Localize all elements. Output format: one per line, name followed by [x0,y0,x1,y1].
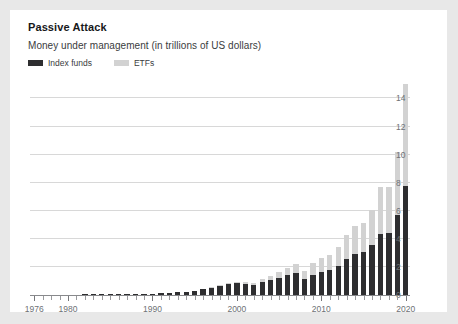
bar-group[interactable] [217,285,222,295]
x-axis-minor-tick [76,296,77,300]
bar-segment-etfs [344,235,349,259]
x-axis-minor-tick [313,296,314,300]
bar-segment-index-funds [268,280,273,295]
y-axis-tick-label: 12 [396,122,405,132]
bar-segment-etfs [352,226,357,254]
x-axis-minor-tick [144,296,145,300]
bar-group[interactable] [276,272,281,295]
x-axis-major-tick [237,296,238,301]
bar-segment-etfs [361,223,366,252]
bar-group[interactable] [234,282,239,295]
bar-group[interactable] [369,210,374,295]
x-axis-minor-tick [279,296,280,300]
x-axis-minor-tick [93,296,94,300]
x-axis-minor-tick [220,296,221,300]
x-axis-minor-tick [212,296,213,300]
x-axis-minor-tick [60,296,61,300]
bar-series-container [30,76,410,295]
bar-group[interactable] [378,187,383,295]
x-axis-minor-tick [127,296,128,300]
bar-segment-index-funds [403,186,408,296]
y-axis-tick-label: 14 [396,93,405,103]
bar-group[interactable] [336,247,341,295]
legend-label: Index funds [48,58,92,68]
x-axis-minor-tick [136,296,137,300]
x-axis-minor-tick [355,296,356,300]
x-axis-minor-tick [85,296,86,300]
x-axis-minor-tick [330,296,331,300]
bar-segment-index-funds [243,284,248,295]
x-axis-tick-label: 1976 [25,304,44,314]
x-axis-tick-label: 1980 [59,304,78,314]
y-axis-tick-label: 6 [396,206,401,216]
bar-segment-index-funds [226,284,231,295]
x-axis-major-tick [68,296,69,301]
x-axis-major-tick [152,296,153,301]
bar-group[interactable] [403,84,408,295]
bar-group[interactable] [327,255,332,295]
x-axis-minor-tick [178,296,179,300]
x-axis-minor-tick [364,296,365,300]
x-axis-minor-tick [203,296,204,300]
bar-segment-index-funds [395,215,400,295]
x-axis-tick-label: 1990 [143,304,162,314]
bar-segment-index-funds [293,273,298,295]
chart-subtitle: Money under management (in trillions of … [28,40,261,51]
bar-segment-index-funds [302,279,307,295]
bar-group[interactable] [243,282,248,295]
x-axis-minor-tick [304,296,305,300]
bar-group[interactable] [285,268,290,295]
x-axis-minor-tick [389,296,390,300]
bar-segment-index-funds [251,285,256,295]
bar-group[interactable] [226,283,231,295]
bar-segment-index-funds [361,252,366,295]
bar-group[interactable] [361,223,366,295]
bar-segment-index-funds [310,275,315,295]
bar-group[interactable] [293,264,298,295]
x-axis-minor-tick [228,296,229,300]
bar-group[interactable] [352,226,357,295]
x-axis-minor-tick [380,296,381,300]
x-axis-tick-label: 2010 [312,304,331,314]
bar-segment-index-funds [217,286,222,295]
legend-item: ETFs [114,58,154,68]
y-axis-tick-label: 4 [396,234,401,244]
x-axis-minor-tick [245,296,246,300]
legend-item: Index funds [28,58,92,68]
x-axis-minor-tick [397,296,398,300]
bar-group[interactable] [395,152,400,295]
plot-area [30,76,410,295]
bar-segment-etfs [285,268,290,276]
x-axis-minor-tick [102,296,103,300]
bar-group[interactable] [209,287,214,295]
x-axis-minor-tick [288,296,289,300]
bar-group[interactable] [302,271,307,295]
bar-segment-index-funds [369,245,374,295]
x-axis-minor-tick [296,296,297,300]
bar-group[interactable] [344,235,349,295]
bar-group[interactable] [319,258,324,295]
bar-group[interactable] [386,187,391,295]
bar-segment-index-funds [327,270,332,295]
legend-label: ETFs [134,58,154,68]
y-axis-tick-label: 8 [396,178,401,188]
bar-segment-etfs [310,263,315,274]
legend-swatch-index-funds [28,60,43,66]
bar-segment-index-funds [319,272,324,295]
bar-segment-index-funds [378,234,383,295]
x-axis-minor-tick [195,296,196,300]
chart-card: Passive Attack Money under management (i… [10,10,447,312]
x-axis-minor-tick [254,296,255,300]
bar-group[interactable] [268,276,273,295]
x-axis-minor-tick [262,296,263,300]
bar-group[interactable] [260,279,265,295]
bar-segment-index-funds [386,233,391,295]
bar-segment-etfs [369,210,374,245]
x-axis-minor-tick [51,296,52,300]
bar-group[interactable] [310,263,315,295]
bar-segment-index-funds [336,266,341,295]
x-axis-minor-tick [186,296,187,300]
x-axis-minor-tick [161,296,162,300]
bar-group[interactable] [251,283,256,295]
bar-segment-index-funds [276,278,281,295]
